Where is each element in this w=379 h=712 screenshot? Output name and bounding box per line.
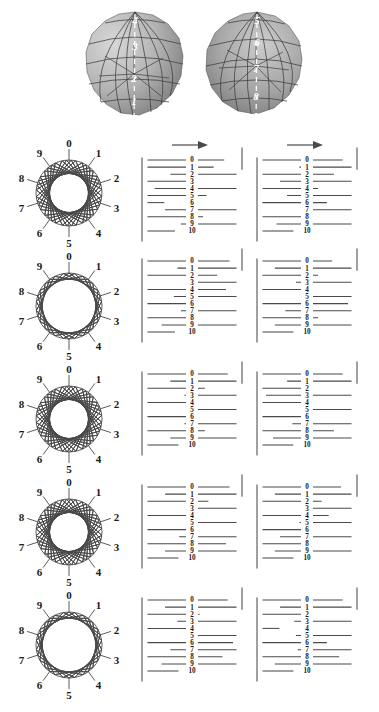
circle-point-label-1: 1: [96, 373, 102, 385]
meander-row3-col2: 012345678910: [247, 362, 367, 475]
circle-point-label-0: 0: [66, 363, 72, 375]
meander-row-labels: 012345678910: [301, 156, 313, 235]
meander-row-label-10: 10: [303, 441, 311, 449]
circle-point-label-7: 7: [19, 541, 25, 553]
circle-point-label-2: 2: [114, 285, 120, 297]
circle-ticks: [27, 601, 111, 689]
circle-point-label-7: 7: [19, 654, 25, 666]
meander-row-label-10: 10: [188, 441, 196, 449]
meander-row-label-10: 10: [303, 554, 311, 562]
circle-point-label-3: 3: [114, 315, 120, 327]
sphere-right-label-4: 9: [253, 110, 259, 122]
circle-point-label-3: 3: [114, 428, 120, 440]
circle-point-label-6: 6: [37, 453, 43, 465]
circle-point-label-0: 0: [66, 250, 72, 262]
polyhedron-right-svg: 5 6 7 8 9: [195, 4, 315, 132]
polyhedra-panel: 4 3 2 1 0: [0, 0, 379, 136]
polyhedron-right: 5 6 7 8 9: [195, 4, 315, 132]
polyhedron-left-body: [86, 12, 183, 126]
meander-row2-col2: 012345678910: [247, 249, 367, 362]
diagram-row-3: 0123456789012345678910012345678910: [0, 362, 379, 475]
meander-row-labels: 012345678910: [301, 257, 313, 336]
circle-ticks: [27, 262, 111, 350]
circle-point-label-0: 0: [66, 589, 72, 601]
diagram-rows: 0123456789012345678910012345678910012345…: [0, 136, 379, 705]
meander-row-labels: 012345678910: [301, 483, 313, 562]
polyhedron-left: 4 3 2 1 0: [75, 4, 195, 132]
meander-row4-col1: 012345678910: [132, 475, 246, 588]
circle-point-label-8: 8: [19, 285, 25, 297]
meander-row4-col2: 012345678910: [247, 475, 367, 588]
diagram-row-2: 0123456789012345678910012345678910: [0, 249, 379, 362]
chord-circle-row4-svg: 0123456789: [8, 475, 130, 588]
sphere-left-label-3: 1: [131, 95, 137, 107]
meander-row-labels: 012345678910: [186, 596, 198, 675]
chord-circle-row2: 0123456789: [8, 249, 130, 362]
meander-row5-col2: 012345678910: [247, 588, 367, 701]
circle-point-label-0: 0: [66, 137, 72, 149]
figure-root: 4 3 2 1 0: [0, 0, 379, 712]
circle-point-label-2: 2: [114, 624, 120, 636]
diagram-row-5: 0123456789012345678910012345678910: [0, 588, 379, 705]
circle-point-label-2: 2: [114, 398, 120, 410]
meander-row1-col1: 012345678910: [132, 136, 246, 249]
sphere-left-label-4: 0: [131, 112, 137, 124]
chord-circle-row3: 0123456789: [8, 362, 130, 475]
chord-lattice: [36, 273, 101, 339]
sphere-left-label-1: 3: [131, 40, 138, 52]
circle-point-label-9: 9: [37, 599, 43, 611]
circle-point-label-8: 8: [19, 398, 25, 410]
sphere-left-label-0: 4: [131, 14, 138, 26]
meander-row4-col2-svg: 012345678910: [247, 475, 361, 588]
meander-row-label-10: 10: [188, 328, 196, 336]
meander-row3-col2-svg: 012345678910: [247, 362, 361, 475]
meander-row-label-10: 10: [303, 328, 311, 336]
circle-point-label-5: 5: [66, 576, 72, 588]
circle-point-label-5: 5: [66, 463, 72, 475]
chord-lattice: [36, 612, 101, 678]
circle-point-label-6: 6: [37, 227, 43, 239]
circle-point-label-4: 4: [96, 566, 102, 578]
chord-circle-row1-svg: 0123456789: [8, 136, 130, 249]
sphere-right-label-0: 5: [254, 14, 260, 26]
circle-point-label-0: 0: [66, 476, 72, 488]
circle-point-label-9: 9: [37, 486, 43, 498]
meander-row3-col1: 012345678910: [132, 362, 246, 475]
diagram-row-1: 0123456789012345678910012345678910: [0, 136, 379, 249]
circle-point-label-9: 9: [37, 373, 43, 385]
meander-row1-col2: 012345678910: [247, 136, 367, 249]
circle-point-label-7: 7: [19, 428, 25, 440]
meander-row-label-10: 10: [188, 227, 196, 235]
meander-row-labels: 012345678910: [186, 370, 198, 449]
sphere-right-label-3: 8: [253, 90, 259, 102]
circle-point-label-9: 9: [37, 147, 43, 159]
meander-row2-col2-svg: 012345678910: [247, 249, 361, 362]
meander-row5-col1: 012345678910: [132, 588, 246, 701]
meander-row-label-10: 10: [303, 667, 311, 675]
chord-circle-row4: 0123456789: [8, 475, 130, 588]
circle-point-label-8: 8: [19, 511, 25, 523]
meander-row-labels: 012345678910: [186, 257, 198, 336]
sphere-left-label-2: 2: [130, 72, 137, 84]
circle-point-label-8: 8: [19, 172, 25, 184]
circle-point-label-1: 1: [96, 486, 102, 498]
meander-row-labels: 012345678910: [301, 596, 313, 675]
meander-row-labels: 012345678910: [301, 370, 313, 449]
chord-circle-row5-svg: 0123456789: [8, 588, 130, 701]
meander-row5-col2-svg: 012345678910: [247, 588, 361, 701]
meander-row-labels: 012345678910: [186, 156, 198, 235]
chord-circle-row1: 0123456789: [8, 136, 130, 249]
circle-point-label-2: 2: [114, 511, 120, 523]
circle-point-label-3: 3: [114, 202, 120, 214]
sphere-right-label-2: 7: [253, 62, 259, 74]
circle-point-label-2: 2: [114, 172, 120, 184]
chord-circle-row3-svg: 0123456789: [8, 362, 130, 475]
circle-point-label-4: 4: [96, 679, 102, 691]
diagram-row-4: 0123456789012345678910012345678910: [0, 475, 379, 588]
circle-point-label-9: 9: [37, 260, 43, 272]
meander-row-label-10: 10: [188, 667, 196, 675]
meander-row3-col1-svg: 012345678910: [132, 362, 246, 475]
circle-point-label-6: 6: [37, 340, 43, 352]
direction-arrow-icon: [172, 141, 208, 149]
meander-row5-col1-svg: 012345678910: [132, 588, 246, 701]
